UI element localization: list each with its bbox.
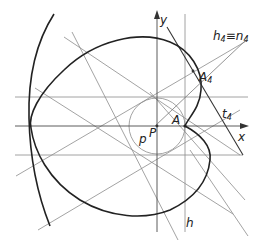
point-A — [183, 124, 186, 127]
label-h4-n4: h4≡n4 — [213, 30, 248, 44]
label-t4: t4 — [222, 108, 232, 122]
point-A4 — [192, 70, 195, 73]
label-x: x — [238, 131, 245, 143]
construction-line-1 — [72, 32, 178, 240]
label-h: h — [186, 217, 194, 229]
x-axis-arrow-icon — [240, 123, 249, 129]
construction-line-4 — [16, 40, 248, 176]
label-A: A — [172, 114, 180, 126]
label-A4: A4 — [199, 71, 212, 85]
construction-line-5 — [38, 110, 240, 230]
outer-arc — [29, 14, 54, 226]
label-P: P — [149, 127, 156, 139]
label-y: y — [160, 14, 167, 26]
label-p: p — [139, 133, 147, 145]
